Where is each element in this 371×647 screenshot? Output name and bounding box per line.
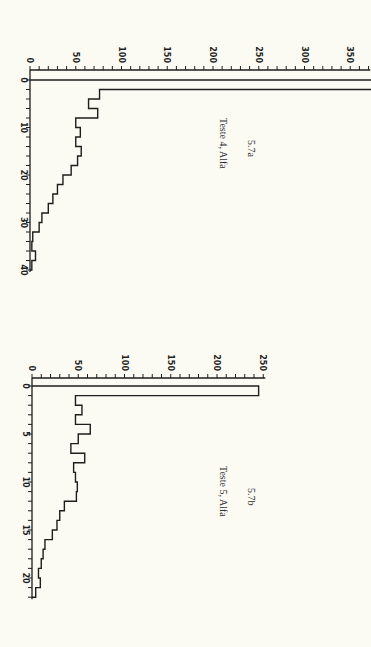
value-tick-label: 0 [27, 365, 36, 371]
value-tick-label: 200 [208, 46, 217, 63]
value-tick-label: 200 [212, 354, 221, 371]
figure-number-5-7a: 5.7a [246, 140, 257, 157]
value-tick-label: 300 [300, 46, 309, 63]
value-tick-label: 250 [254, 46, 263, 63]
value-tick-label: 100 [120, 354, 129, 371]
value-tick-label: 350 [345, 46, 354, 63]
bin-tick-label: 40 [19, 264, 28, 276]
figure-number-5-7b: 5.7b [246, 488, 257, 506]
figure-5-7a: 050100150200250300350010203040 5.7a Test… [0, 0, 371, 320]
histogram-teste-5: 05010015020025005101520 [0, 320, 371, 647]
value-tick-label: 150 [162, 46, 171, 63]
bin-tick-label: 0 [21, 383, 30, 389]
figure-title-teste-5: Teste 5, Alfa [218, 466, 229, 517]
bin-tick-label: 20 [19, 169, 28, 181]
bin-tick-label: 20 [21, 572, 30, 584]
value-tick-label: 50 [71, 52, 80, 64]
value-tick-label: 250 [258, 354, 267, 371]
bin-tick-label: 15 [21, 524, 30, 536]
value-tick-label: 50 [73, 360, 82, 372]
value-tick-label: 100 [117, 46, 126, 63]
value-tick-label: 150 [166, 354, 175, 371]
bin-tick-label: 30 [19, 217, 28, 229]
bin-tick-label: 0 [19, 77, 28, 83]
histogram-teste-4: 050100150200250300350010203040 [0, 0, 371, 320]
bin-tick-label: 10 [21, 476, 30, 488]
value-tick-label: 0 [25, 57, 34, 63]
figure-title-teste-4: Teste 4, Alfa [218, 118, 229, 169]
bin-tick-label: 10 [19, 122, 28, 134]
histogram-outline [30, 80, 371, 270]
figure-5-7b: 05010015020025005101520 5.7b Teste 5, Al… [0, 320, 371, 647]
bin-tick-label: 5 [21, 431, 30, 437]
